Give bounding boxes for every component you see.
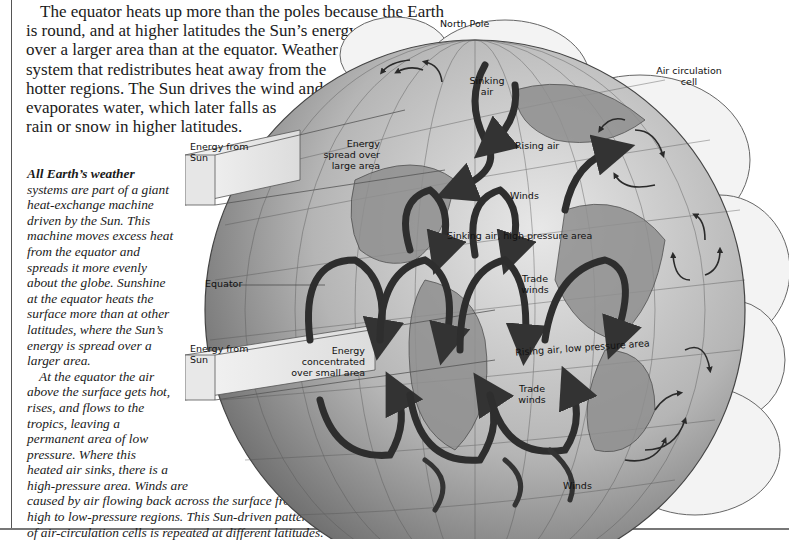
label-winds-top: Winds [510,190,539,201]
label-north-pole: North Pole [440,18,489,29]
label-rising-air: Rising air [515,140,559,151]
label-sinking-air-high-pressure: Sinking air, high pressure area [447,230,592,241]
globe-diagram: North Pole Sinking air Air circulation c… [185,10,789,539]
label-sinking-air: Sinking air [467,75,507,97]
left-margin-rule [11,0,12,528]
label-energy-concentrated: Energy concentrated over small area [285,345,365,378]
label-winds-bottom: Winds [563,480,592,491]
label-energy-from-sun-top: Energy from Sun [190,141,248,163]
label-air-circulation-cell: Air circulation cell [649,65,729,87]
label-trade-winds-bottom: Trade winds [512,383,552,405]
label-equator: Equator [205,278,242,289]
label-energy-spread: Energy spread over large area [305,138,380,171]
label-trade-winds-top: Trade winds [515,273,555,295]
label-energy-from-sun-bottom: Energy from Sun [190,343,248,365]
